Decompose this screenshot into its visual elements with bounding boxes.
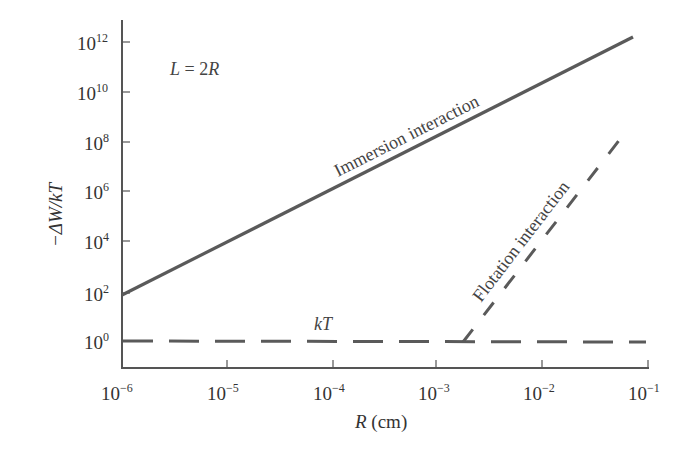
flotation-label: Flotation interaction — [468, 177, 573, 305]
x-axis-title: R (cm) — [354, 411, 407, 433]
chart-canvas: 1012 1010 108 106 104 102 100 10−6 10−5 … — [0, 0, 697, 456]
y-axis-title: −ΔW/kT — [45, 182, 66, 248]
x-tick-label: 10−1 — [628, 381, 660, 404]
x-tick-labels: 10−6 10−5 10−4 10−3 10−2 10−1 — [101, 381, 660, 404]
x-tick-label: 10−3 — [418, 381, 450, 404]
y-tick-label: 100 — [84, 330, 109, 353]
y-tick-label: 1010 — [77, 81, 108, 104]
y-tick-label: 104 — [84, 230, 109, 253]
y-tick-label: 108 — [84, 131, 109, 154]
y-tick-label: 102 — [84, 282, 109, 305]
x-tick-label: 10−4 — [313, 381, 345, 404]
flotation-interaction-dashed-line — [463, 134, 624, 342]
x-tick-label: 10−5 — [207, 381, 239, 404]
x-ticks — [227, 360, 648, 368]
kt-label: kT — [314, 314, 334, 334]
x-tick-label: 10−2 — [523, 381, 555, 404]
condition-label: L = 2R — [169, 59, 219, 79]
y-tick-label: 106 — [84, 180, 109, 203]
y-tick-label: 1012 — [77, 31, 108, 54]
immersion-label: Immersion interaction — [331, 91, 482, 181]
kt-dashed-line — [123, 341, 646, 342]
y-tick-labels: 1012 1010 108 106 104 102 100 — [77, 31, 109, 353]
x-tick-label: 10−6 — [101, 381, 133, 404]
